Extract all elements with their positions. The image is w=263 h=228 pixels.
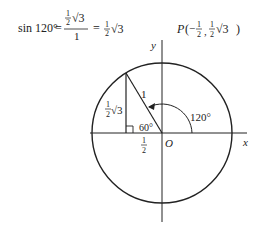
point-p-label: P ( − 1 2 , 1 2 √3 ) (176, 20, 240, 39)
svg-text:√3: √3 (216, 22, 229, 36)
svg-text:): ) (236, 22, 240, 36)
height-coef-den: 2 (106, 110, 110, 119)
angle-120-label: 120° (190, 111, 211, 123)
rhs-root: √3 (111, 22, 124, 36)
svg-text:−: − (189, 22, 195, 34)
point-name: P (176, 22, 185, 36)
height-root: √3 (111, 104, 123, 116)
rhs-coef-num: 1 (105, 20, 109, 29)
frac-num-coef-num: 1 (66, 9, 70, 18)
hypotenuse-label: 1 (141, 88, 147, 100)
svg-text:2: 2 (197, 30, 201, 39)
frac-num-root: √3 (72, 11, 85, 25)
base-num: 1 (142, 136, 146, 145)
right-angle-marker (126, 126, 133, 133)
svg-text:1: 1 (210, 20, 214, 29)
unit-circle-diagram: sin 120° = 1 2 √3 1 = 1 2 √3 P ( − 1 2 ,… (0, 0, 263, 228)
svg-text:1: 1 (197, 20, 201, 29)
equals-sign-2: = (93, 21, 100, 35)
frac-num-coef-den: 2 (66, 18, 70, 27)
x-axis-label: x (242, 136, 248, 148)
angle-arc (149, 104, 192, 133)
frac-den: 1 (74, 30, 80, 42)
angle-60-label: 60° (139, 122, 153, 133)
equals-sign-1: = (55, 21, 62, 35)
arc-arrowhead-icon (148, 103, 155, 110)
equation-lhs: sin 120° (18, 21, 58, 35)
base-den: 2 (142, 146, 146, 155)
svg-text:,: , (204, 25, 207, 37)
y-axis-label: y (150, 39, 156, 51)
sine-equation: sin 120° = 1 2 √3 1 = 1 2 √3 (18, 9, 124, 42)
height-coef-num: 1 (106, 100, 110, 109)
origin-label: O (165, 137, 173, 149)
rhs-coef-den: 2 (105, 29, 109, 38)
svg-text:2: 2 (210, 30, 214, 39)
